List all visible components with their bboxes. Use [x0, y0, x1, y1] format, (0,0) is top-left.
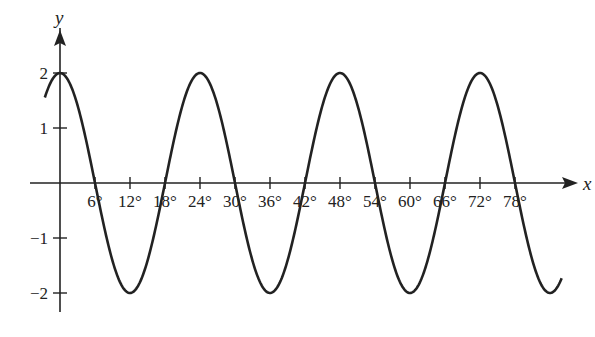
x-tick-label: 48° [328, 192, 352, 211]
x-tick-label: 72° [468, 192, 492, 211]
y-tick-label: 1 [40, 119, 49, 138]
x-tick-label: 54° [363, 192, 387, 211]
x-axis: x [30, 173, 592, 194]
y-axis-label: y [53, 7, 64, 28]
x-tick-label: 60° [398, 192, 422, 211]
cosine-chart: x y 6°12°18°24°30°36°42°48°54°60°66°72°7… [0, 0, 595, 337]
x-tick-label: 18° [153, 192, 177, 211]
x-tick-label: 24° [188, 192, 212, 211]
y-axis: y [53, 7, 66, 312]
x-tick-label: 12° [118, 192, 142, 211]
x-tick-label: 66° [433, 192, 457, 211]
x-tick-label: 78° [503, 192, 527, 211]
x-ticks: 6°12°18°24°30°36°42°48°54°60°66°72°78° [87, 177, 527, 211]
y-tick-label: 2 [40, 64, 49, 83]
x-axis-label: x [582, 173, 592, 194]
y-tick-label: −1 [30, 229, 48, 248]
x-tick-label: 42° [293, 192, 317, 211]
x-tick-label: 30° [223, 192, 247, 211]
y-tick-label: −2 [30, 284, 48, 303]
x-tick-label: 36° [258, 192, 282, 211]
